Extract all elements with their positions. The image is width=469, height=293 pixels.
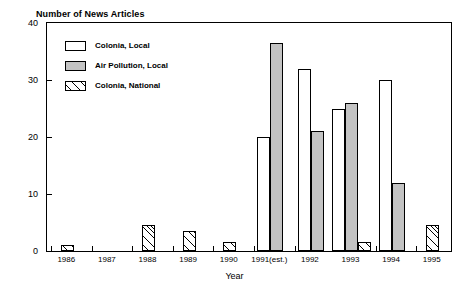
x-axis-tick-label: 1995 [423,255,441,264]
bar-1990-series2 [223,242,236,251]
x-axis-tick-label: 1986 [57,255,75,264]
x-axis-tick-label: 1988 [139,255,157,264]
y-axis-tick-mark [46,137,52,138]
x-axis-tick-mark [416,246,417,251]
x-axis-tick-label: 1987 [98,255,116,264]
bar-1992-series0 [298,69,311,251]
bar-1995-series2 [426,225,439,251]
bar-1991est-series1 [270,43,283,251]
y-axis-tick-label: 40 [10,18,38,28]
y-axis-tick-label: 0 [10,246,38,256]
legend-label: Colonia, National [95,81,160,90]
y-axis-tick-mark [46,80,52,81]
plot-area: Colonia, LocalAir Pollution, LocalColoni… [46,22,452,252]
news-articles-bar-chart: Number of News Articles 010203040 Coloni… [0,0,469,293]
bar-1986-series2 [61,245,74,251]
x-axis-tick-label: 1994 [382,255,400,264]
x-axis-tick-label: 1991(est.) [251,255,287,264]
legend-label: Colonia, Local [95,41,150,50]
legend-swatch-hatch [65,81,86,91]
x-axis-tick-mark [376,246,377,251]
chart-legend: Colonia, LocalAir Pollution, LocalColoni… [65,39,168,99]
chart-title: Number of News Articles [36,9,145,19]
bar-1992-series1 [311,131,324,251]
legend-swatch-white [65,41,86,51]
y-axis-tick-label: 30 [10,75,38,85]
x-axis-tick-label: 1989 [179,255,197,264]
x-axis-tick-label: 1993 [342,255,360,264]
legend-item: Colonia, National [65,79,168,92]
x-axis-title: Year [0,271,469,281]
x-axis-tick-mark [51,246,52,251]
x-axis-tick-mark [173,246,174,251]
bar-1988-series2 [142,225,155,251]
y-axis-tick-label: 10 [10,189,38,199]
y-axis-labels: 010203040 [8,22,38,252]
legend-swatch-gray [65,61,86,71]
x-axis-tick-mark [254,246,255,251]
bar-1994-series1 [392,183,405,251]
legend-item: Air Pollution, Local [65,59,168,72]
bar-1993-series0 [332,109,345,252]
legend-label: Air Pollution, Local [95,61,168,70]
bar-1993-series1 [345,103,358,251]
y-axis-tick-mark [46,194,52,195]
y-axis-tick-label: 20 [10,132,38,142]
bar-1991est-series0 [257,137,270,251]
x-axis-tick-mark [295,246,296,251]
bar-1993-series2 [358,242,371,251]
x-axis-tick-label: 1992 [301,255,319,264]
x-axis-tick-mark [92,246,93,251]
x-axis-tick-mark [213,246,214,251]
bar-1989-series2 [183,231,196,251]
x-axis-tick-mark [132,246,133,251]
x-axis-tick-label: 1990 [220,255,238,264]
legend-item: Colonia, Local [65,39,168,52]
bar-1994-series0 [379,80,392,251]
